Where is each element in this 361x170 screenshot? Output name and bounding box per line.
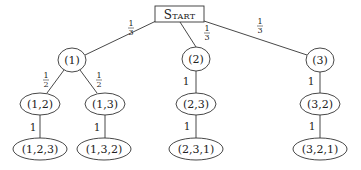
node-3-2-label: (3,2) — [307, 98, 333, 111]
node-1-2-3: (1,2,3) — [13, 138, 67, 160]
weight-12-123: 1 — [30, 121, 37, 133]
weight-start-2: 1 3 — [204, 24, 210, 42]
node-2-3: (2,3) — [176, 93, 216, 115]
svg-text:2: 2 — [96, 80, 101, 89]
node-1-2: (1,2) — [20, 93, 60, 115]
node-1-2-label: (1,2) — [27, 98, 53, 111]
weight-start-1: 1 3 — [128, 19, 134, 37]
svg-text:1: 1 — [204, 24, 209, 33]
node-2-label: (2) — [188, 53, 204, 66]
node-2: (2) — [182, 47, 210, 71]
node-1-3: (1,3) — [85, 93, 125, 115]
edge-start-2 — [180, 22, 196, 47]
edge-1-13 — [80, 70, 97, 93]
node-1-3-label: (1,3) — [92, 98, 118, 111]
node-3-label: (3) — [312, 54, 328, 67]
edge-start-3 — [204, 21, 307, 55]
node-2-3-1: (2,3,1) — [169, 138, 223, 160]
edge-start-1 — [85, 21, 156, 55]
weight-3-32: 1 — [308, 75, 315, 87]
svg-text:1: 1 — [96, 71, 101, 80]
root-label: Start — [164, 8, 196, 22]
weight-1-13: 1 2 — [96, 71, 102, 89]
svg-text:3: 3 — [204, 33, 209, 42]
svg-text:1: 1 — [128, 19, 133, 28]
node-3-2-1-label: (3,2,1) — [302, 143, 339, 156]
node-1-3-2-label: (1,3,2) — [86, 143, 123, 156]
node-3: (3) — [306, 48, 334, 72]
weight-32-321: 1 — [309, 120, 316, 132]
weight-2-23: 1 — [183, 75, 190, 87]
node-3-2: (3,2) — [300, 93, 340, 115]
svg-text:1: 1 — [257, 17, 262, 26]
node-1-3-2: (1,3,2) — [77, 138, 131, 160]
svg-text:1: 1 — [43, 71, 48, 80]
node-1-label: (1) — [64, 54, 80, 67]
weight-13-132: 1 — [94, 121, 101, 133]
edge-1-12 — [47, 70, 64, 93]
root-node: Start — [155, 6, 204, 22]
node-1: (1) — [58, 48, 86, 72]
weight-1-12: 1 2 — [43, 71, 49, 89]
edges — [40, 21, 320, 138]
node-2-3-1-label: (2,3,1) — [178, 143, 215, 156]
svg-text:3: 3 — [128, 28, 133, 37]
probability-tree-diagram: Start (1) (2) (3) (1,2) (1,3) (2,3) (3,2… — [0, 0, 361, 170]
weight-start-3: 1 3 — [257, 17, 263, 35]
svg-text:3: 3 — [257, 26, 262, 35]
svg-text:2: 2 — [43, 80, 48, 89]
node-2-3-label: (2,3) — [183, 98, 209, 111]
node-3-2-1: (3,2,1) — [293, 138, 347, 160]
node-1-2-3-label: (1,2,3) — [22, 143, 59, 156]
weight-23-231: 1 — [184, 120, 191, 132]
